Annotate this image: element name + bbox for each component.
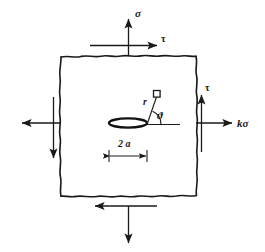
- right-tau-label: τ: [205, 82, 210, 93]
- field-point-marker: [154, 91, 161, 98]
- crack-length-label: 2 a: [117, 138, 131, 149]
- crack-length-dimension: [109, 150, 147, 162]
- top-sigma-label: σ: [135, 7, 142, 19]
- angle-label: ϑ: [157, 109, 164, 121]
- radius-line: [147, 97, 157, 125]
- figure-canvas: σ τ τ kσ: [0, 0, 265, 252]
- right-ksigma-label: kσ: [237, 117, 250, 129]
- crack-ellipse: [109, 118, 147, 127]
- top-tau-label: τ: [161, 33, 166, 44]
- radius-label: r: [143, 96, 147, 107]
